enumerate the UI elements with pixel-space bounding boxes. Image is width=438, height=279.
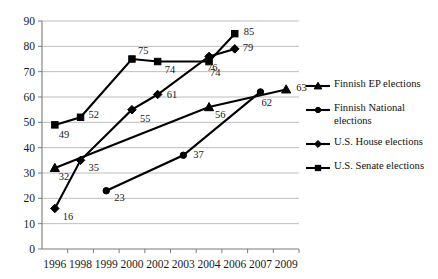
square-legend-key-icon <box>305 161 331 175</box>
circle-marker-icon <box>257 89 263 95</box>
y-axis: 0102030405060708090 <box>24 15 43 255</box>
data-point-label: 16 <box>63 211 74 222</box>
data-point-label: 49 <box>59 129 70 140</box>
x-axis-tick-label: 2002 <box>146 258 169 270</box>
data-point-label: 55 <box>140 113 151 124</box>
circle-legend-key-icon <box>305 103 331 117</box>
x-axis-tick-label: 2009 <box>275 258 298 270</box>
data-point-label: 32 <box>59 171 70 182</box>
x-axis-tick-label: 2003 <box>172 258 195 270</box>
circle-marker-icon <box>315 107 320 112</box>
y-axis-tick-label: 20 <box>24 192 36 204</box>
triangle-marker-icon <box>282 85 291 93</box>
y-axis-tick-label: 80 <box>24 40 36 52</box>
circle-marker-icon <box>103 188 109 194</box>
legend-item-label: U.S. House elections <box>334 136 423 149</box>
diamond-marker-icon <box>230 45 239 54</box>
series-line <box>106 92 260 191</box>
data-point-label: 56 <box>215 109 226 120</box>
chart-legend: Finnish EP electionsFinnish National ele… <box>305 78 438 184</box>
data-point-label: 74 <box>165 64 176 75</box>
x-axis-tick-label: 1998 <box>69 258 92 270</box>
data-point-label: 23 <box>114 192 125 203</box>
x-axis-tick-label: 1999 <box>95 258 118 270</box>
legend-item-label: U.S. Senate elections <box>334 160 424 173</box>
diamond-legend-key-icon <box>305 137 331 151</box>
data-point-label: 35 <box>89 162 100 173</box>
data-point-label: 61 <box>167 89 178 100</box>
x-axis-tick-label: 2004 <box>198 258 221 270</box>
square-marker-icon <box>77 114 83 120</box>
x-axis-tick-label: 2000 <box>120 258 143 270</box>
data-point-label: 85 <box>244 26 255 37</box>
y-axis-tick-label: 60 <box>24 91 36 103</box>
y-axis-tick-label: 50 <box>24 116 36 128</box>
diamond-marker-icon <box>51 204 60 213</box>
y-axis-tick-label: 40 <box>24 142 36 154</box>
x-axis-tick-label: 2007 <box>249 258 272 270</box>
legend-item-label: Finnish National elections <box>334 102 405 127</box>
data-series <box>50 30 290 212</box>
diamond-marker-icon <box>314 140 321 147</box>
x-axis-tick-label: 1996 <box>43 258 66 270</box>
legend-item[interactable]: U.S. Senate elections <box>305 160 438 175</box>
chart-container: 0102030405060708090 19961998199920002002… <box>0 0 438 279</box>
square-marker-icon <box>52 122 58 128</box>
data-point-label: 74 <box>210 67 221 78</box>
data-point-label: 75 <box>138 45 149 56</box>
y-axis-tick-label: 30 <box>24 167 36 179</box>
square-marker-icon <box>315 165 320 170</box>
square-marker-icon <box>232 30 238 36</box>
series-line <box>55 89 286 167</box>
circle-marker-icon <box>180 152 186 158</box>
triangle-legend-key-icon <box>305 79 331 93</box>
square-marker-icon <box>154 58 160 64</box>
y-axis-tick-label: 70 <box>24 66 36 78</box>
x-axis-tick-label: 2006 <box>223 258 246 270</box>
x-axis: 1996199819992000200220032004200620072009 <box>42 249 299 270</box>
legend-item[interactable]: Finnish National elections <box>305 102 438 127</box>
y-axis-tick-label: 0 <box>29 243 35 255</box>
data-point-label: 62 <box>261 97 272 108</box>
legend-item-label: Finnish EP elections <box>334 78 421 91</box>
y-axis-tick-label: 90 <box>24 15 36 27</box>
square-marker-icon <box>129 56 135 62</box>
legend-item[interactable]: Finnish EP elections <box>305 78 438 93</box>
data-point-label: 52 <box>89 109 100 120</box>
data-labels: 325663233762163555617679495275747485 <box>59 26 307 223</box>
legend-item[interactable]: U.S. House elections <box>305 136 438 151</box>
y-axis-tick-label: 10 <box>24 218 36 230</box>
data-point-label: 79 <box>243 42 254 53</box>
data-point-label: 37 <box>193 149 204 160</box>
